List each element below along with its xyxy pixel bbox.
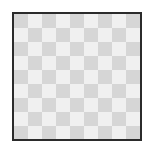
checkerboard-pattern: transparency-checkerboard xyxy=(14,14,15,15)
transparent-image-placeholder: transparency-checkerboard xyxy=(12,12,142,141)
